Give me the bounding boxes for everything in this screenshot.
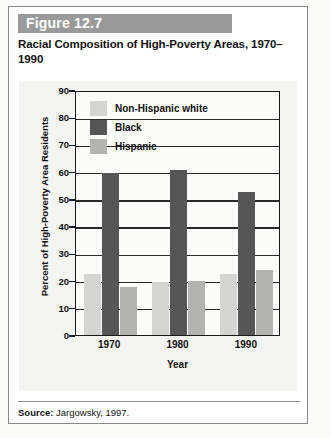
y-tick-label: 60 (43, 168, 69, 178)
chart-legend: Non-Hispanic whiteBlackHispanic (90, 100, 240, 157)
y-tick-label: 70 (43, 140, 69, 150)
figure-number-label: Figure 12.7 (26, 16, 102, 31)
legend-swatch (90, 120, 107, 135)
legend-swatch (90, 139, 107, 154)
y-tick-label: 50 (43, 195, 69, 205)
legend-label: Black (115, 122, 142, 133)
source-prefix: Source: (18, 407, 53, 418)
source-citation: Jargowsky, 1997. (53, 407, 129, 418)
legend-label: Non-Hispanic white (115, 103, 208, 114)
bar (188, 281, 205, 335)
bar (120, 287, 137, 335)
x-tick-label: 1990 (216, 339, 276, 350)
bar (170, 170, 187, 335)
y-tick-label: 30 (43, 249, 69, 259)
x-tick-label: 1970 (79, 339, 139, 350)
y-tick-label: 90 (43, 86, 69, 96)
legend-item: Hispanic (90, 138, 240, 155)
bar (102, 173, 119, 335)
chart-area: Percent of High-Poverty Area Residents 0… (19, 81, 297, 391)
figure-number-banner: Figure 12.7 (18, 14, 232, 33)
x-axis-label: Year (75, 359, 280, 370)
figure-page: Figure 12.7 Racial Composition of High-P… (0, 0, 331, 438)
figure-title: Racial Composition of High-Poverty Areas… (18, 37, 290, 66)
bar (256, 270, 273, 335)
source-divider (18, 401, 300, 402)
bar (220, 274, 237, 335)
y-axis-tick-labels: 0102030405060708090 (37, 91, 69, 336)
legend-label: Hispanic (115, 141, 157, 152)
legend-item: Black (90, 119, 240, 136)
plot-frame: Non-Hispanic whiteBlackHispanic (75, 91, 280, 336)
bar (152, 282, 169, 335)
y-tick-label: 20 (43, 277, 69, 287)
source-note: Source: Jargowsky, 1997. (18, 407, 129, 418)
bar (84, 274, 101, 335)
x-tick-label: 1980 (148, 339, 208, 350)
y-tick-label: 80 (43, 113, 69, 123)
y-tick-label: 40 (43, 222, 69, 232)
y-tick-label: 10 (43, 304, 69, 314)
figure-card: Figure 12.7 Racial Composition of High-P… (8, 6, 308, 424)
legend-item: Non-Hispanic white (90, 100, 240, 117)
y-tick-label: 0 (43, 331, 69, 341)
legend-swatch (90, 101, 107, 116)
bar (238, 192, 255, 335)
